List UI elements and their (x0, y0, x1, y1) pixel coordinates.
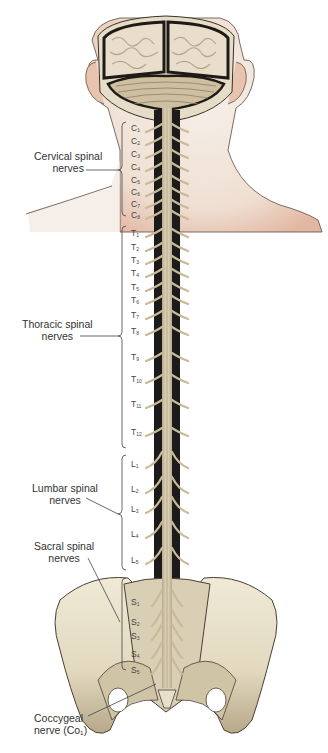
sacral-group-label: Sacral spinal nerves (34, 540, 94, 564)
segment-label-c8: C8 (131, 211, 140, 222)
segment-label-s3: S3 (131, 632, 139, 643)
segment-label-l4: L4 (131, 530, 139, 541)
segment-label-t4: T4 (131, 269, 139, 280)
coccygeal-group-label: Coccygeal nerve (Co₁) (34, 712, 87, 736)
thoracic-group-label: Thoracic spinal nerves (22, 318, 93, 342)
segment-label-c6: C6 (131, 188, 140, 199)
segment-label-t11: T11 (131, 400, 141, 411)
thoracic-label-line2: nerves (22, 330, 93, 342)
segment-label-t1: T1 (131, 229, 139, 240)
lumbar-label-line2: nerves (32, 494, 98, 506)
segment-label-l2: L2 (131, 485, 139, 496)
segment-label-t8: T8 (131, 327, 139, 338)
segment-label-c5: C5 (131, 176, 140, 187)
segment-label-l3: L3 (131, 505, 139, 516)
segment-label-t2: T2 (131, 243, 139, 254)
segment-label-c3: C3 (131, 150, 140, 161)
segment-label-t5: T5 (131, 283, 139, 294)
spinal-nerves-illustration (0, 0, 328, 753)
segment-label-t10: T10 (131, 375, 142, 386)
cervical-label-line1: Cervical spinal (34, 150, 102, 162)
segment-label-l1: L1 (131, 460, 139, 471)
segment-label-c4: C4 (131, 163, 140, 174)
brain-cutaway (98, 16, 234, 122)
segment-label-t3: T3 (131, 256, 139, 267)
coccygeal-label-line1: Coccygeal (34, 712, 87, 724)
segment-label-l5: L5 (131, 556, 139, 567)
segment-label-t12: T12 (131, 428, 142, 439)
segment-label-t7: T7 (131, 311, 139, 322)
segment-label-t9: T9 (131, 353, 139, 364)
coccygeal-label-line2: nerve (Co₁) (34, 724, 87, 736)
segment-label-s2: S2 (131, 618, 139, 629)
lumbar-label-line1: Lumbar spinal (32, 482, 98, 494)
lumbar-group-label: Lumbar spinal nerves (32, 482, 98, 506)
sacral-label-line2: nerves (34, 552, 94, 564)
segment-label-t6: T6 (131, 296, 139, 307)
cervical-group-label: Cervical spinal nerves (34, 150, 102, 174)
segment-label-c1: C1 (131, 124, 140, 135)
segment-label-c2: C2 (131, 137, 140, 148)
segment-label-s5: S5 (131, 666, 139, 677)
segment-label-s1: S1 (131, 598, 139, 609)
segment-label-s4: S4 (131, 650, 139, 661)
cervical-label-line2: nerves (34, 162, 102, 174)
sacral-label-line1: Sacral spinal (34, 540, 94, 552)
thoracic-label-line1: Thoracic spinal (22, 318, 93, 330)
